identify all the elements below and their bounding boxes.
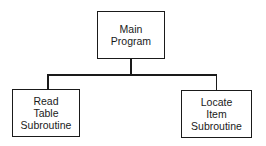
read-table-label-line-2: Table — [33, 107, 58, 119]
read-table-label-line-1: Read — [33, 95, 58, 107]
locate-item-label-line-2: Item — [206, 108, 226, 120]
read-table-label-line-3: Subroutine — [21, 119, 72, 131]
connector-right-down — [216, 74, 218, 91]
read-table-subroutine-box: Read Table Subroutine — [12, 89, 80, 137]
connector-root-down — [130, 58, 132, 75]
locate-item-label-line-3: Subroutine — [191, 120, 242, 132]
connector-left-down — [47, 74, 49, 89]
main-program-label-line-1: Main — [120, 23, 143, 35]
main-program-box: Main Program — [97, 11, 165, 59]
locate-item-subroutine-box: Locate Item Subroutine — [181, 90, 252, 138]
locate-item-label-line-1: Locate — [201, 96, 233, 108]
main-program-label-line-2: Program — [111, 35, 151, 47]
connector-horizontal — [47, 74, 217, 76]
